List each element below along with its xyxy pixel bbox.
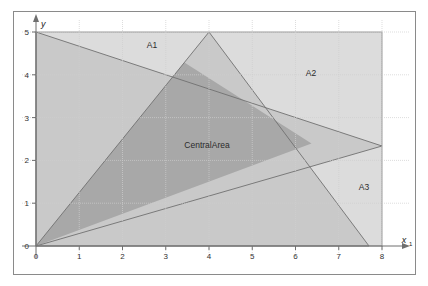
x-tick-label-3: 3 [164,252,169,261]
x-tick-label-1: 1 [77,252,82,261]
y-tick-label-4: 4 [25,71,30,80]
x-tick-label-0: 0 [34,252,39,261]
y-tick-label-5: 5 [25,28,30,37]
region-label-a3: A3 [359,182,370,192]
x-tick-label-5: 5 [250,252,255,261]
x-tick-label-7: 7 [337,252,342,261]
y-axis-label: y [40,19,46,29]
y-tick-label-0: 0 [25,242,30,251]
figure-root: 0 1 2 3 4 5 6 7 8 0 1 2 3 4 5 y x 1 A1 A… [0,0,428,286]
region-label-central-area: CentralArea [184,140,230,150]
y-tick-label-2: 2 [25,156,30,165]
region-label-a2: A2 [306,68,317,78]
x-tick-label-8: 8 [380,252,385,261]
region-label-a1: A1 [147,40,158,50]
geometry-figure: 0 1 2 3 4 5 6 7 8 0 1 2 3 4 5 y x 1 A1 A… [0,0,428,286]
y-tick-label-3: 3 [25,114,30,123]
y-tick-label-1: 1 [25,199,30,208]
x-tick-label-2: 2 [120,252,125,261]
x-axis-label: x [401,235,407,245]
x-tick-label-4: 4 [207,252,212,261]
x-tick-label-6: 6 [293,252,298,261]
